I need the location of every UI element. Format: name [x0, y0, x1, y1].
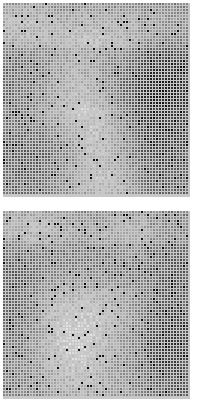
heatmap-figure: Top heatmap Bottom heatmap [0, 0, 199, 409]
heatmap-panel-top[interactable]: Top heatmap [3, 3, 190, 197]
heatmap-panel-bottom[interactable]: Bottom heatmap [3, 211, 190, 399]
heatmap-canvas-bottom[interactable] [3, 211, 190, 399]
heatmap-canvas-top[interactable] [3, 3, 190, 197]
